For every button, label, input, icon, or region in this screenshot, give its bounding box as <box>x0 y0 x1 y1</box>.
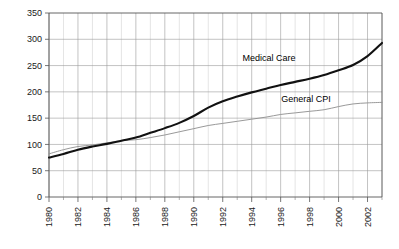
x-axis-tick-label: 1996 <box>276 207 286 227</box>
x-axis-tick-label: 2002 <box>363 207 373 227</box>
x-axis-tick-label: 1988 <box>160 207 170 227</box>
x-axis-tick-label: 2000 <box>334 207 344 227</box>
y-axis-tick-labels: 050100150200250300350 <box>27 8 42 202</box>
x-axis-tick-label: 1998 <box>305 207 315 227</box>
y-axis-tick-label: 100 <box>27 140 42 150</box>
y-axis-tick-label: 0 <box>37 192 42 202</box>
x-axis-tick-label: 1990 <box>189 207 199 227</box>
y-axis-tick-label: 250 <box>27 61 42 71</box>
x-axis-tick-label: 1992 <box>218 207 228 227</box>
x-axis-tick-label: 1980 <box>44 207 54 227</box>
series-label-general-cpi: General CPI <box>281 94 331 104</box>
y-axis-tick-marks <box>45 13 49 197</box>
y-axis-tick-label: 150 <box>27 113 42 123</box>
y-axis-tick-label: 50 <box>32 166 42 176</box>
x-axis-tick-label: 1982 <box>73 207 83 227</box>
x-axis-tick-label: 1986 <box>131 207 141 227</box>
series-label-medical-care: Medical Care <box>242 53 295 63</box>
y-axis-tick-label: 350 <box>27 8 42 18</box>
chart-container: 050100150200250300350 198019821984198619… <box>0 0 399 249</box>
x-axis-tick-label: 1994 <box>247 207 257 227</box>
line-chart: 050100150200250300350 198019821984198619… <box>0 0 399 249</box>
y-axis-tick-label: 200 <box>27 87 42 97</box>
y-axis-tick-label: 300 <box>27 34 42 44</box>
x-axis-tick-label: 1984 <box>102 207 112 227</box>
x-axis-tick-marks <box>49 197 382 202</box>
x-axis-tick-labels: 1980198219841986198819901992199419961998… <box>44 207 373 227</box>
